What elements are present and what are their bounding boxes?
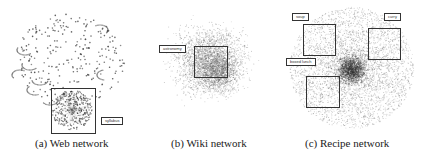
network-node [373, 87, 374, 88]
network-node [245, 63, 246, 64]
network-node [383, 77, 384, 78]
network-node [392, 62, 393, 63]
network-node [388, 88, 389, 89]
label-astronomy: astronomy [159, 45, 186, 53]
network-node [367, 73, 368, 74]
network-node [354, 19, 355, 20]
network-node [354, 85, 355, 86]
network-node [361, 28, 362, 29]
network-node [236, 80, 237, 81]
network-node [402, 50, 403, 51]
network-node [335, 115, 336, 116]
network-node [58, 31, 60, 33]
network-node [398, 66, 399, 67]
network-node [190, 85, 191, 86]
network-node [102, 79, 103, 80]
network-node [386, 25, 387, 26]
network-node [350, 78, 351, 79]
network-node [347, 31, 348, 32]
network-node [398, 69, 399, 70]
network-node [395, 85, 396, 86]
network-node [234, 69, 235, 70]
network-node [351, 80, 352, 81]
network-node [383, 118, 384, 119]
network-node [364, 95, 365, 96]
network-node [212, 83, 213, 84]
network-node [363, 63, 364, 64]
network-node [342, 24, 343, 25]
network-node [304, 105, 305, 106]
network-node [402, 91, 403, 92]
network-node [341, 67, 342, 68]
network-node [354, 68, 355, 69]
network-node [405, 69, 406, 70]
network-node [178, 56, 179, 57]
network-node [238, 57, 239, 58]
network-node [340, 111, 341, 112]
network-node [379, 73, 380, 74]
network-node [383, 112, 384, 113]
network-node [115, 71, 117, 73]
network-node [237, 87, 238, 88]
network-node [329, 19, 330, 20]
network-node [234, 44, 235, 45]
network-node [348, 73, 349, 74]
network-node [316, 20, 317, 21]
network-node [348, 8, 349, 9]
network-node [63, 63, 65, 65]
network-node [368, 110, 369, 111]
network-node [374, 79, 375, 80]
network-node [171, 70, 172, 71]
network-node [191, 44, 192, 45]
network-node [376, 63, 377, 64]
network-node [363, 66, 364, 67]
network-node [196, 37, 197, 38]
network-node [54, 25, 56, 27]
network-node [356, 103, 357, 104]
network-node [357, 13, 358, 14]
network-node [395, 95, 396, 96]
network-node [341, 17, 342, 18]
network-node [384, 23, 385, 24]
network-node [224, 84, 225, 85]
network-node [351, 120, 352, 121]
network-node [210, 41, 211, 42]
network-node [191, 49, 192, 50]
network-node [244, 49, 245, 50]
network-node [388, 84, 389, 85]
network-node [189, 79, 190, 80]
network-node [359, 103, 360, 104]
network-node [353, 46, 354, 47]
network-node [377, 61, 378, 62]
network-node [353, 80, 354, 81]
network-node [334, 70, 335, 71]
network-node [219, 43, 220, 44]
network-node [332, 61, 333, 62]
network-node [196, 94, 197, 95]
network-node [349, 52, 350, 53]
network-node [377, 83, 378, 84]
network-node [368, 115, 369, 116]
network-node [294, 54, 295, 55]
network-node [188, 53, 189, 54]
network-node [374, 13, 375, 14]
network-node [358, 9, 359, 10]
network-node [364, 63, 365, 64]
network-node [224, 90, 225, 91]
network-node [380, 24, 381, 25]
network-node [401, 85, 402, 86]
network-node [333, 65, 334, 66]
network-node [179, 57, 180, 58]
network-node [218, 39, 219, 40]
network-node [242, 50, 243, 51]
network-node [350, 71, 351, 72]
network-node [312, 66, 313, 67]
network-node [238, 40, 239, 41]
network-node [362, 8, 363, 9]
network-node [374, 117, 375, 118]
network-node [366, 31, 367, 32]
network-node [179, 71, 180, 72]
network-node [360, 111, 361, 112]
network-node [383, 106, 384, 107]
network-node [369, 21, 370, 22]
